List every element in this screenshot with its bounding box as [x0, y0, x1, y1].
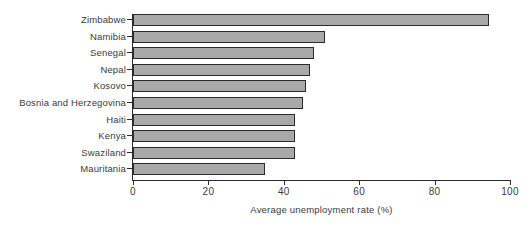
y-axis-tick-label: Swaziland — [0, 147, 126, 159]
x-axis-title: Average unemployment rate (%) — [133, 204, 510, 215]
y-tick-mark — [127, 168, 132, 169]
x-tick-mark — [359, 180, 360, 185]
x-tick-label: 80 — [429, 186, 441, 197]
y-tick-mark — [127, 19, 132, 20]
x-tick-mark — [208, 180, 209, 185]
bar-row — [133, 31, 510, 43]
x-tick-mark — [435, 180, 436, 185]
bar-row — [133, 130, 510, 142]
plot-area — [133, 14, 510, 180]
y-label-row: Zimbabwe — [0, 14, 126, 26]
y-label-row: Senegal — [0, 47, 126, 59]
y-axis-tick-label: Kosovo — [0, 80, 126, 92]
bar — [133, 97, 303, 109]
bar-row — [133, 14, 510, 26]
y-label-row: Swaziland — [0, 147, 126, 159]
y-axis-tick-label: Senegal — [0, 47, 126, 59]
y-axis-tick-label: Namibia — [0, 31, 126, 43]
y-label-row: Bosnia and Herzegovina — [0, 97, 126, 109]
bar — [133, 147, 295, 159]
bar-chart: ZimbabweNamibiaSenegalNepalKosovoBosnia … — [0, 0, 530, 233]
bar — [133, 31, 325, 43]
y-axis-tick-label: Zimbabwe — [0, 14, 126, 26]
bar — [133, 14, 489, 26]
bar-series — [133, 14, 510, 180]
y-tick-mark — [127, 102, 132, 103]
bar-row — [133, 163, 510, 175]
y-label-row: Kosovo — [0, 80, 126, 92]
x-tick-label: 0 — [130, 186, 136, 197]
y-label-row: Nepal — [0, 64, 126, 76]
y-axis-tick-label: Haiti — [0, 114, 126, 126]
bar-row — [133, 97, 510, 109]
y-label-row: Haiti — [0, 114, 126, 126]
y-tick-mark — [127, 69, 132, 70]
y-axis-tick-label: Bosnia and Herzegovina — [0, 97, 126, 109]
x-tick-label: 20 — [203, 186, 215, 197]
y-axis-tick-label: Nepal — [0, 64, 126, 76]
y-axis-tick-label: Kenya — [0, 130, 126, 142]
bar — [133, 47, 314, 59]
bar-row — [133, 147, 510, 159]
y-tick-mark — [127, 135, 132, 136]
x-tick-mark — [510, 180, 511, 185]
y-label-row: Mauritania — [0, 163, 126, 175]
y-tick-mark — [127, 85, 132, 86]
y-tick-mark — [127, 152, 132, 153]
bar — [133, 163, 265, 175]
y-axis-tick-label: Mauritania — [0, 163, 126, 175]
x-tick-label: 60 — [353, 186, 365, 197]
bar-row — [133, 47, 510, 59]
bar — [133, 80, 306, 92]
chart-title — [150, 0, 370, 3]
bar-row — [133, 114, 510, 126]
y-tick-mark — [127, 119, 132, 120]
bar-row — [133, 64, 510, 76]
bar — [133, 64, 310, 76]
y-label-row: Kenya — [0, 130, 126, 142]
y-axis-labels: ZimbabweNamibiaSenegalNepalKosovoBosnia … — [0, 14, 126, 180]
x-tick-label: 40 — [278, 186, 290, 197]
bar — [133, 114, 295, 126]
y-label-row: Namibia — [0, 31, 126, 43]
x-axis-ticks: 020406080100 — [0, 180, 530, 202]
bar — [133, 130, 295, 142]
x-tick-label: 100 — [501, 186, 519, 197]
bar-row — [133, 80, 510, 92]
y-tick-mark — [127, 52, 132, 53]
x-tick-mark — [133, 180, 134, 185]
x-tick-mark — [284, 180, 285, 185]
y-tick-mark — [127, 36, 132, 37]
